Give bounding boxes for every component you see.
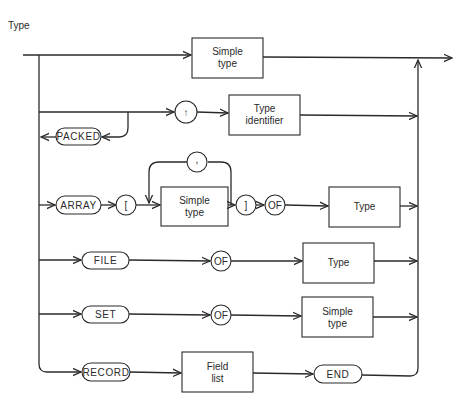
file-type-box: Type — [303, 243, 374, 283]
connector — [130, 372, 181, 373]
array-label: ARRAY — [60, 200, 97, 211]
comma-label: , — [196, 154, 199, 165]
set-of-circle: OF — [211, 305, 231, 325]
exit-line — [263, 57, 452, 58]
set-capsule: SET — [82, 306, 129, 323]
set-of-label: OF — [214, 310, 228, 321]
array-capsule: ARRAY — [56, 196, 101, 214]
connector — [231, 315, 301, 316]
array-of-circle: OF — [265, 195, 285, 215]
lbracket-circle: [ — [116, 195, 136, 215]
file-of-label: OF — [214, 256, 228, 267]
packed-capsule: PACKED — [56, 128, 101, 145]
packed-label: PACKED — [57, 131, 101, 142]
rbracket-label: ] — [245, 200, 248, 211]
syntax-diagram-type: Type Simple type ↑ Type identifier PACKE… — [0, 0, 454, 418]
array-simple-type-box: Simple type — [161, 187, 228, 226]
left-bus — [39, 55, 47, 372]
end-capsule: END — [314, 365, 362, 383]
record-label: RECORD — [83, 367, 130, 378]
set-label: SET — [95, 309, 116, 320]
simple-type-label-1: Simple — [212, 46, 243, 57]
pointer-circle: ↑ — [175, 101, 197, 123]
type-identifier-label-2: identifier — [246, 115, 284, 126]
connector — [285, 205, 328, 206]
field-list-label-1: Field — [207, 361, 229, 372]
type-identifier-box: Type identifier — [229, 95, 300, 135]
right-bus — [410, 60, 418, 376]
file-of-circle: OF — [211, 251, 231, 271]
array-of-label: OF — [268, 200, 282, 211]
lbracket-label: [ — [125, 200, 128, 211]
array-type-box: Type — [329, 187, 400, 227]
connector — [129, 314, 210, 315]
simple-type-label-2: type — [218, 58, 237, 69]
comma-circle: , — [187, 152, 207, 172]
connector — [362, 375, 410, 376]
type-identifier-label-1: Type — [254, 103, 276, 114]
end-label: END — [327, 369, 350, 380]
simple-type-box: Simple type — [192, 38, 263, 78]
rbracket-circle: ] — [236, 195, 256, 215]
file-label: FILE — [94, 255, 118, 266]
packed-branch — [102, 112, 128, 137]
array-type-label: Type — [354, 201, 376, 212]
diagram-title: Type — [8, 20, 30, 31]
record-capsule: RECORD — [82, 363, 130, 381]
connector — [197, 112, 228, 113]
field-list-label-2: list — [211, 373, 223, 384]
connector — [300, 115, 417, 116]
set-simple-type-box: Simple type — [302, 297, 373, 337]
file-type-label: Type — [328, 257, 350, 268]
set-simple-type-label-1: Simple — [322, 306, 353, 317]
file-capsule: FILE — [82, 252, 129, 269]
array-simple-type-label-1: Simple — [179, 195, 210, 206]
connector — [129, 260, 210, 261]
connector — [253, 373, 313, 374]
array-simple-type-label-2: type — [185, 207, 204, 218]
pointer-arrow-icon: ↑ — [184, 107, 189, 118]
set-simple-type-label-2: type — [328, 318, 347, 329]
field-list-box: Field list — [182, 352, 253, 392]
